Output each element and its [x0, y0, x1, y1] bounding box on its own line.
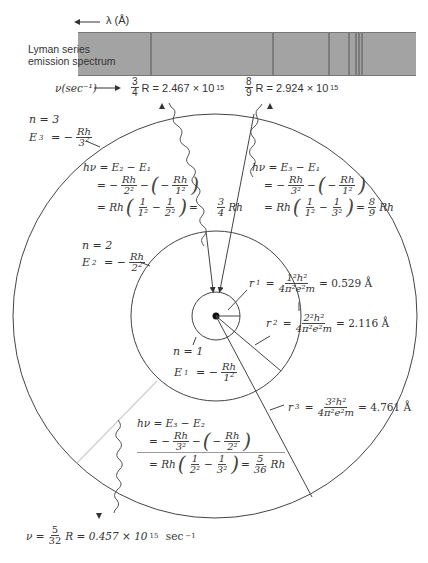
- level-n2-label: n = 2: [82, 240, 112, 252]
- level-n1-energy: E1 = − Rh12: [174, 362, 238, 383]
- transition-3-to-1-equation: hν = E₃ − E₁ = − Rh3² −(− Rh1²) = Rh( 11…: [252, 160, 394, 218]
- level-n3-label: n = 3: [29, 114, 59, 126]
- spectral-line-8-9R-label: 89 R = 2.924 × 1015: [244, 77, 338, 98]
- level-n2-energy: E2 = − Rh22: [82, 252, 146, 273]
- radius-r2-equation: r2 = 2²h²4π²e²m = 2.116 Å: [266, 312, 389, 334]
- transition-2-to-1-equation: hν = E₂ − E₁ = − Rh2² −(− Rh1²) = Rh( 11…: [83, 160, 243, 218]
- transition-3-to-2-equation: hν = E₃ − E₂ = − Rh3² −(− Rh2²) = Rh( 12…: [137, 416, 285, 475]
- frequency-axis-label: ν(sec⁻¹): [55, 82, 97, 94]
- level-n3-energy: E3 = − Rh32: [29, 127, 93, 148]
- series-label-line1: Lyman series: [28, 43, 90, 55]
- photon-5-32R-icon: [114, 420, 122, 513]
- emission-spectrum-band: [78, 32, 416, 76]
- spectral-line-3-4R-label: 34 R = 2.467 × 1015: [130, 77, 224, 98]
- radius-r3-equation: r3 = 3²h²4π²e²m = 4.761 Å: [288, 396, 411, 418]
- balmer-frequency-label: ν = 532 R = 0.457 × 1015 sec−1: [26, 525, 196, 546]
- level-n1-label: n = 1: [173, 346, 203, 358]
- bohr-model-diagram: λ (Å) Lyman series emission spectrum ν(s…: [0, 0, 428, 563]
- radius-r1-equation: r1 = 1²h²4π²e²m = 0.529 Å: [249, 272, 372, 294]
- transition-2-to-1-arrow: [206, 231, 213, 290]
- wavelength-axis-label: λ (Å): [106, 14, 129, 26]
- series-label-line2: emission spectrum: [28, 55, 116, 67]
